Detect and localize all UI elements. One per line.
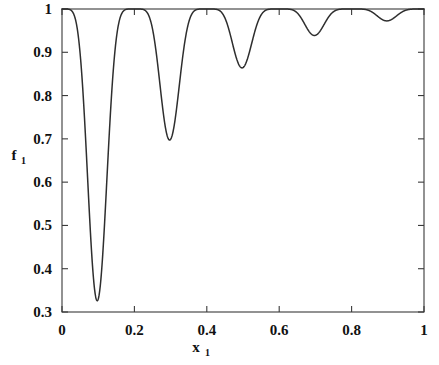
y-axis-title-text: f [12,147,18,163]
x-axis-title-text: x [192,339,200,355]
x-axis-title: x 1 [192,339,210,358]
chart-figure: 00.20.40.60.81 0.30.40.50.60.70.80.91 x … [0,0,439,365]
x-tick-label: 0.2 [125,322,144,338]
x-tick-label: 0.8 [342,322,361,338]
y-tick-label: 0.6 [33,174,52,190]
data-curve-f1 [62,9,424,301]
y-axis-title-subscript: 1 [21,155,26,166]
y-tick-label: 0.4 [33,261,52,277]
y-tick-label: 0.9 [33,44,52,60]
y-tick-label: 0.7 [33,131,52,147]
y-tick-label: 0.3 [33,304,52,320]
x-tick-label: 0.4 [197,322,216,338]
x-tick-label: 0.6 [270,322,289,338]
plot-svg: 00.20.40.60.81 0.30.40.50.60.70.80.91 x … [0,0,439,365]
x-tick-label: 0 [58,322,66,338]
x-tick-label: 1 [420,322,428,338]
plot-frame [62,9,424,312]
y-tick-label: 0.8 [33,88,52,104]
y-axis-title: f 1 [12,147,27,166]
y-tick-label: 1 [45,1,53,17]
x-axis-title-subscript: 1 [205,347,210,358]
y-axis-tick-marks [62,9,424,312]
x-axis-tick-labels: 00.20.40.60.81 [58,322,428,338]
y-tick-label: 0.5 [33,217,52,233]
y-axis-tick-labels: 0.30.40.50.60.70.80.91 [33,1,52,320]
x-axis-tick-marks [62,9,424,312]
